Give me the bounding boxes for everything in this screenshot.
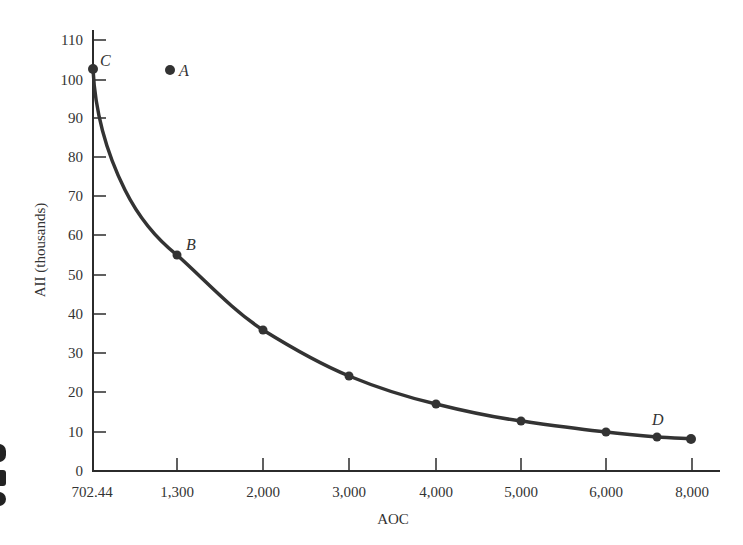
point-labels: C A B D: [100, 52, 664, 428]
point-label-d: D: [651, 411, 664, 428]
trade-off-curve: [93, 69, 691, 439]
y-tick-label: 50: [68, 267, 83, 283]
y-tick-label: 30: [68, 345, 83, 361]
y-tick-label: 60: [68, 227, 83, 243]
data-marker: [517, 417, 526, 426]
y-tick-label: 10: [68, 424, 83, 440]
y-tick-label: 0: [76, 463, 84, 479]
y-tick-label: 20: [68, 384, 83, 400]
y-axis-title: AII (thousands): [32, 203, 49, 298]
y-tick-label: 90: [68, 110, 83, 126]
chart: 0 10 20 30 40 50 60 70 80 90 100 110 702…: [0, 0, 743, 545]
y-tick-label: 110: [61, 32, 83, 48]
point-b-marker: [173, 251, 182, 260]
point-d-marker: [653, 433, 662, 442]
point-label-b: B: [186, 236, 196, 253]
x-tick-labels: 702.44 1,300 2,000 3,000 4,000 5,000 6,0…: [71, 484, 709, 500]
point-label-a: A: [178, 62, 189, 79]
point-a-marker: [165, 65, 175, 75]
x-tick-label: 1,300: [160, 484, 194, 500]
data-marker: [345, 372, 354, 381]
y-tick-label: 100: [61, 72, 84, 88]
data-marker: [432, 400, 441, 409]
x-tick-label: 702.44: [71, 484, 113, 500]
point-label-c: C: [100, 52, 111, 69]
x-tick-label: 5,000: [504, 484, 538, 500]
x-tick-label: 6,000: [589, 484, 623, 500]
x-ticks: [177, 458, 692, 471]
data-marker: [686, 434, 696, 444]
x-tick-label: 3,000: [332, 484, 366, 500]
x-axis-title: AOC: [377, 511, 409, 527]
x-tick-label: 2,000: [246, 484, 280, 500]
point-c-marker: [88, 64, 98, 74]
y-tick-labels: 0 10 20 30 40 50 60 70 80 90 100 110: [61, 32, 84, 479]
data-marker: [259, 326, 268, 335]
y-tick-label: 70: [68, 188, 83, 204]
data-marker: [602, 428, 611, 437]
y-tick-label: 40: [68, 306, 83, 322]
data-markers: [88, 64, 696, 444]
y-tick-label: 80: [68, 149, 83, 165]
x-tick-label: 8,000: [675, 484, 709, 500]
x-tick-label: 4,000: [419, 484, 453, 500]
